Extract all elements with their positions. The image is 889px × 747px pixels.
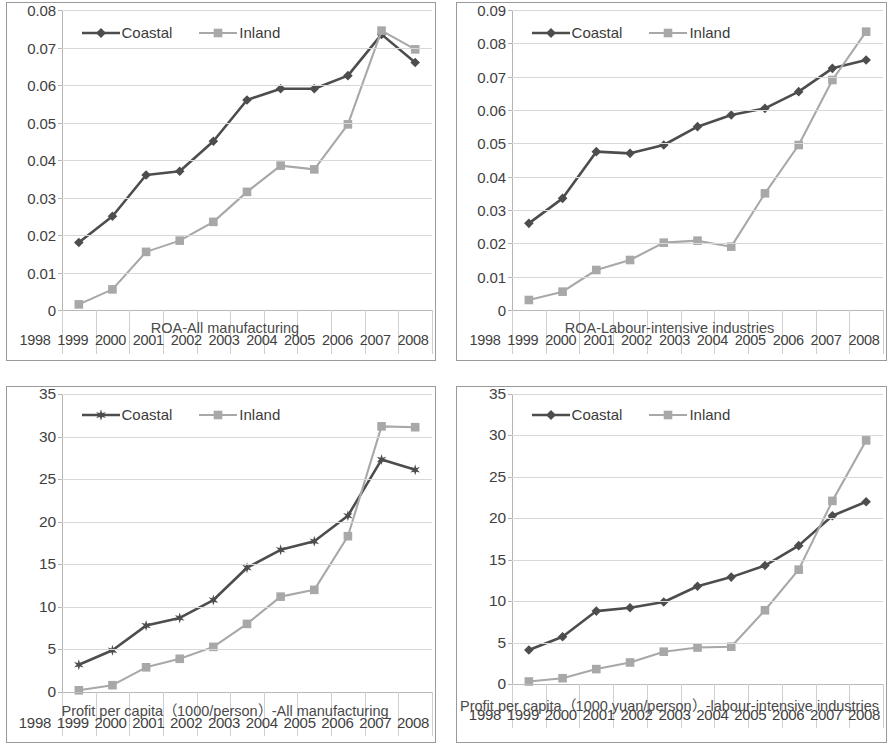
panel-profit-all-manufacturing: 05101520253035 1998199920002001200220032… xyxy=(0,378,450,747)
y-axis-tick xyxy=(508,77,512,78)
plot-wrapper: 05101520253035 1998199920002001200220032… xyxy=(466,394,883,684)
gridline xyxy=(62,10,432,11)
legend-entry-coastal: Coastal xyxy=(531,406,623,423)
y-axis-tick xyxy=(58,85,62,86)
legend-marker-icon xyxy=(648,26,688,40)
panel-profit-labour-intensive: 05101520253035 1998199920002001200220032… xyxy=(450,378,889,747)
gridline xyxy=(512,310,883,311)
gridline xyxy=(62,235,432,236)
y-tick-label: 0 xyxy=(48,302,56,319)
data-point xyxy=(592,665,601,674)
series-line-coastal xyxy=(529,60,866,223)
data-point xyxy=(142,663,151,672)
gridline xyxy=(512,177,883,178)
y-axis-tick xyxy=(58,564,62,565)
y-tick-label: 0.03 xyxy=(477,202,506,219)
plot-wrapper: 00.010.020.030.040.050.060.070.080.09 19… xyxy=(466,10,883,310)
legend-label: Coastal xyxy=(572,406,623,423)
data-point xyxy=(276,161,285,170)
series-line-inland xyxy=(79,426,415,690)
data-point xyxy=(626,256,635,265)
y-tick-label: 20 xyxy=(489,509,506,527)
gridline xyxy=(512,10,883,11)
data-point xyxy=(693,581,703,591)
legend-entry-inland: Inland xyxy=(648,406,730,423)
y-tick-label: 0.02 xyxy=(477,235,506,252)
y-tick-label: 20 xyxy=(39,513,56,531)
legend-label: Inland xyxy=(239,24,280,41)
y-axis-tick xyxy=(508,277,512,278)
y-tick-label: 5 xyxy=(47,640,56,658)
legend-entry-inland: Inland xyxy=(648,24,730,41)
y-axis-tick xyxy=(508,110,512,111)
y-tick-label: 0.08 xyxy=(477,35,506,52)
gridline xyxy=(62,564,432,565)
y-axis-tick xyxy=(58,123,62,124)
y-tick-label: 0 xyxy=(498,302,506,319)
y-tick-label: 10 xyxy=(39,598,56,616)
legend-entry-inland: Inland xyxy=(198,24,280,41)
chart-caption: ROA-All manufacturing xyxy=(0,318,450,340)
data-point xyxy=(108,285,117,294)
y-tick-label: 35 xyxy=(39,385,56,403)
plot-wrapper: 00.010.020.030.040.050.060.070.08 199819… xyxy=(16,10,432,310)
y-tick-label: 30 xyxy=(39,428,56,446)
chart-caption: Profit per capita（1000 yuan/person）-labo… xyxy=(450,696,889,718)
series-line-coastal xyxy=(79,460,415,665)
legend-label: Coastal xyxy=(122,406,173,423)
gridline xyxy=(512,143,883,144)
y-axis-tick xyxy=(58,48,62,49)
data-point xyxy=(794,141,803,150)
gridline xyxy=(512,210,883,211)
plot-wrapper: 05101520253035 1998199920002001200220032… xyxy=(16,394,432,692)
plot-area xyxy=(512,394,883,684)
gridline xyxy=(62,48,432,49)
data-point xyxy=(108,681,117,690)
data-point xyxy=(761,606,770,615)
legend-marker-icon xyxy=(531,26,571,40)
data-point xyxy=(861,55,871,65)
chart-profit-all-manufacturing: 05101520253035 1998199920002001200220032… xyxy=(0,378,450,747)
gridline xyxy=(512,601,883,602)
data-point xyxy=(659,647,668,656)
legend-marker-icon xyxy=(648,408,688,422)
gridline xyxy=(512,277,883,278)
y-tick-label: 25 xyxy=(489,468,506,486)
data-point xyxy=(726,572,736,582)
y-tick-label: 0.05 xyxy=(27,114,56,131)
y-axis-labels: 00.010.020.030.040.050.060.070.08 xyxy=(16,10,62,310)
gridline xyxy=(512,518,883,519)
gridline xyxy=(62,479,432,480)
gridline xyxy=(512,43,883,44)
y-tick-label: 0.03 xyxy=(27,189,56,206)
legend: CoastalInland xyxy=(531,406,731,423)
y-tick-label: 0 xyxy=(47,683,56,701)
y-tick-label: 0.06 xyxy=(27,77,56,94)
legend-entry-inland: Inland xyxy=(198,406,280,423)
data-point xyxy=(377,26,386,35)
legend-label: Inland xyxy=(689,406,730,423)
y-tick-label: 30 xyxy=(489,426,506,444)
data-point xyxy=(411,45,420,54)
gridline xyxy=(512,394,883,395)
y-tick-label: 0.09 xyxy=(477,2,506,19)
y-axis-tick xyxy=(508,643,512,644)
gridline xyxy=(512,684,883,685)
y-axis-tick xyxy=(508,43,512,44)
y-axis-tick xyxy=(508,177,512,178)
series-line-coastal xyxy=(529,502,866,650)
legend-marker-icon xyxy=(198,26,238,40)
data-point xyxy=(377,422,386,431)
legend-marker-icon xyxy=(531,408,571,422)
gridline xyxy=(512,243,883,244)
data-point xyxy=(761,189,770,198)
data-point xyxy=(411,423,420,432)
gridline xyxy=(512,435,883,436)
data-point xyxy=(625,149,635,159)
data-point xyxy=(659,140,669,150)
data-point xyxy=(243,620,252,629)
series-line-inland xyxy=(79,31,415,305)
y-axis-tick xyxy=(508,10,512,11)
gridline xyxy=(62,273,432,274)
chart-roa-labour-intensive: 00.010.020.030.040.050.060.070.080.09 19… xyxy=(450,0,889,378)
